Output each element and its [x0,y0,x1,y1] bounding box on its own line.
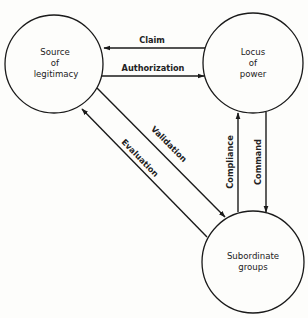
edge-label: Validation [149,124,189,164]
edge-command: Command [253,112,266,212]
node-label-line: legitimacy [34,69,79,79]
edge-label: Compliance [225,135,235,189]
node-subordinate-groups: Subordinate groups [202,211,304,313]
node-label-line: of [249,58,258,68]
edge-label: Evaluation [120,137,161,179]
legitimacy-power-diagram: Source of legitimacy Locus of power Subo… [0,0,308,318]
edge-claim: Claim [104,35,205,48]
node-label-line: groups [238,262,268,272]
node-label-line: Subordinate [227,251,279,261]
edge-authorization: Authorization [102,63,204,76]
node-label-line: Source [40,47,70,57]
arrow-diagonal-up-icon [82,109,207,237]
edge-label: Command [253,139,263,185]
arrow-diagonal-down-icon [97,88,225,217]
node-label-line: Locus [241,47,266,57]
node-label-line: power [240,69,267,79]
edge-evaluation: Evaluation [82,109,207,237]
edge-compliance: Compliance [225,113,238,212]
edge-label: Claim [139,35,165,45]
edge-validation: Validation [97,88,225,217]
node-locus-of-power: Locus of power [203,13,303,113]
node-source-of-legitimacy: Source of legitimacy [5,15,103,113]
node-label-line: of [51,58,60,68]
edge-label: Authorization [122,63,185,73]
